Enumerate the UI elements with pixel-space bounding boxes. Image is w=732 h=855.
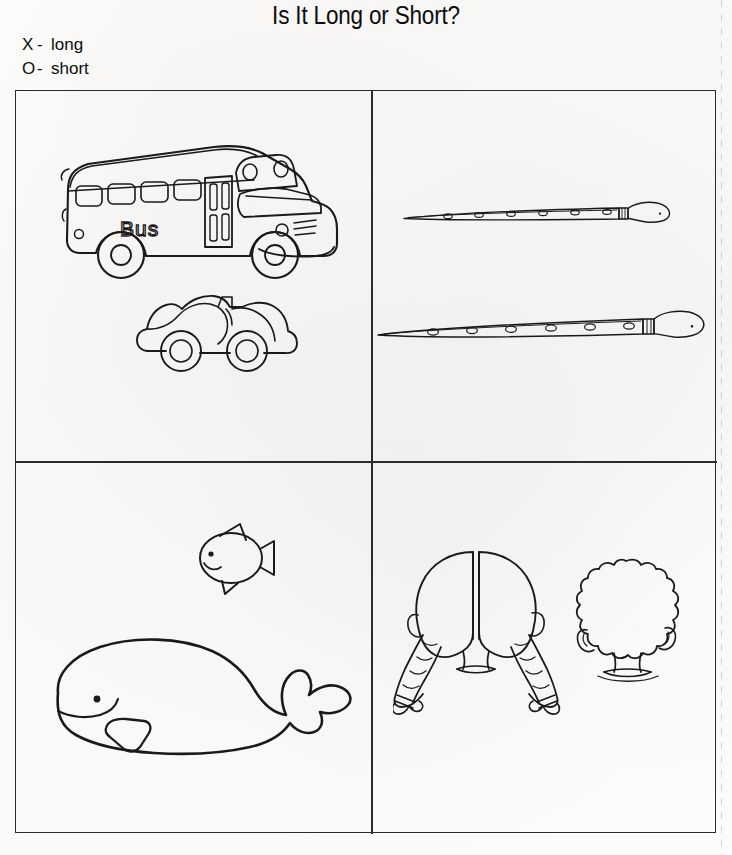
grid-cell-bottom-left[interactable]	[16, 463, 371, 834]
grid-cell-top-right[interactable]	[373, 91, 717, 461]
legend: X - long O - short	[22, 33, 89, 81]
legend-item-long: X - long	[22, 33, 89, 57]
legend-label-long: long	[51, 33, 83, 57]
worksheet-grid: Bus	[15, 90, 716, 833]
whale-illustration	[28, 631, 358, 761]
legend-symbol-x: X	[22, 33, 37, 57]
legend-item-short: O - short	[22, 57, 89, 81]
fish-illustration	[194, 518, 280, 598]
convertible-car-illustration	[126, 289, 306, 379]
legend-dash: -	[37, 57, 51, 81]
legend-dash: -	[37, 33, 51, 57]
legend-label-short: short	[51, 57, 89, 81]
grid-cell-bottom-right[interactable]	[373, 463, 717, 834]
long-braided-hair-illustration	[393, 547, 561, 717]
school-bus-illustration: Bus	[54, 139, 344, 284]
short-flute-illustration	[401, 199, 673, 233]
svg-text:Bus: Bus	[120, 217, 159, 240]
legend-symbol-o: O	[22, 57, 37, 81]
long-flute-illustration	[375, 309, 707, 351]
short-curly-hair-illustration	[571, 558, 683, 690]
grid-cell-top-left[interactable]: Bus	[16, 91, 371, 461]
scan-edge-artifact	[721, 0, 722, 855]
page-title: Is It Long or Short?	[37, 1, 696, 30]
